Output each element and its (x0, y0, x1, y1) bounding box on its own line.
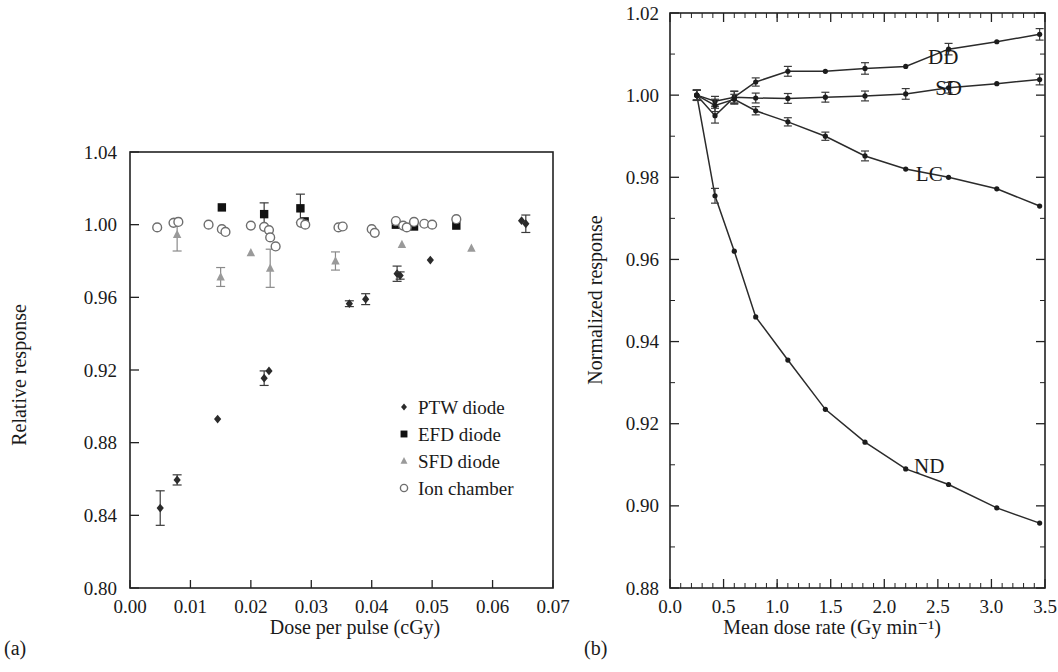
marker-small-dot (994, 81, 999, 86)
marker-filled-diamond (427, 256, 434, 265)
marker-small-dot (732, 97, 737, 102)
marker-small-dot (994, 505, 999, 510)
x-tick-label: 2.5 (926, 596, 950, 617)
x-tick-label: 0.04 (355, 596, 389, 617)
marker-small-dot (994, 186, 999, 191)
x-tick-label: 2.0 (872, 596, 896, 617)
marker-open-circle (301, 220, 310, 229)
series-dd (693, 29, 1044, 123)
marker-filled-diamond (261, 374, 268, 383)
marker-filled-triangle (266, 263, 274, 271)
marker-small-dot (753, 108, 758, 113)
y-tick-label: 1.00 (626, 85, 659, 106)
marker-small-dot (862, 93, 867, 98)
y-tick-label: 0.80 (84, 578, 117, 599)
marker-open-circle (204, 220, 213, 229)
marker-filled-diamond (214, 415, 221, 424)
panel-b-label: (b) (584, 637, 607, 660)
legend-label-efd-diode: EFD diode (418, 424, 501, 445)
marker-small-dot (1037, 32, 1042, 37)
marker-small-dot (785, 357, 790, 362)
panel-a-data-markers (153, 194, 531, 525)
marker-filled-triangle (401, 457, 408, 464)
series-line-dd (697, 34, 1040, 115)
marker-open-circle (428, 220, 437, 229)
marker-open-circle (266, 233, 275, 242)
x-tick-label: 3.5 (1033, 596, 1057, 617)
marker-filled-diamond (157, 504, 164, 513)
x-tick-label: 3.0 (980, 596, 1004, 617)
y-tick-label: 0.88 (626, 578, 659, 599)
marker-filled-square (296, 204, 304, 212)
x-tick-label: 1.0 (765, 596, 789, 617)
marker-open-circle (338, 222, 347, 231)
y-tick-label: 0.94 (626, 331, 660, 352)
series-label-nd: ND (914, 454, 944, 478)
x-tick-label: 0.00 (113, 596, 146, 617)
marker-filled-diamond (362, 295, 369, 304)
marker-filled-square (218, 203, 226, 211)
marker-filled-triangle (173, 230, 181, 238)
x-tick-label: 0.05 (416, 596, 449, 617)
y-tick-label: 0.92 (84, 360, 117, 381)
panel-b-x-axis-ticks: 0.00.51.01.52.02.53.03.5 (658, 13, 1057, 617)
legend-label-ptw-diode: PTW diode (418, 397, 505, 418)
x-tick-label: 1.5 (819, 596, 843, 617)
panel-b-y-axis-ticks: 0.880.900.920.940.960.981.001.02 (626, 3, 1045, 599)
y-tick-label: 1.04 (84, 142, 118, 163)
marker-small-dot (712, 113, 717, 118)
series-label-sd: SD (935, 76, 962, 100)
marker-open-circle (410, 218, 419, 227)
marker-small-dot (823, 407, 828, 412)
marker-small-dot (823, 134, 828, 139)
y-tick-label: 0.84 (84, 505, 118, 526)
marker-small-dot (994, 39, 999, 44)
marker-small-dot (732, 249, 737, 254)
x-tick-label: 0.5 (712, 596, 736, 617)
marker-small-dot (1037, 203, 1042, 208)
marker-small-dot (903, 466, 908, 471)
panel-a-label: (a) (4, 637, 26, 660)
panel-a-frame-rect (130, 152, 553, 588)
y-tick-label: 0.92 (626, 413, 659, 434)
panel-a-y-axis-title: Relative response (8, 304, 31, 446)
marker-small-dot (946, 175, 951, 180)
marker-open-circle (174, 218, 183, 227)
panel-a-x-axis-ticks: 0.000.010.020.030.040.050.060.07 (113, 580, 569, 617)
marker-small-dot (823, 69, 828, 74)
marker-small-dot (712, 193, 717, 198)
series-ion-chamber (153, 215, 461, 251)
series-line-sd (697, 80, 1040, 102)
marker-open-circle (400, 484, 407, 491)
marker-filled-diamond (265, 367, 272, 376)
marker-filled-triangle (247, 248, 255, 256)
marker-small-dot (753, 95, 758, 100)
marker-small-dot (785, 96, 790, 101)
y-tick-label: 0.88 (84, 432, 117, 453)
y-tick-label: 0.96 (84, 287, 117, 308)
series-lc (693, 90, 1042, 208)
panel-b-y-axis-title: Normalized response (584, 215, 607, 385)
marker-small-dot (712, 103, 717, 108)
marker-filled-triangle (331, 256, 339, 264)
marker-filled-triangle (216, 272, 224, 280)
x-tick-label: 0.02 (234, 596, 267, 617)
marker-open-circle (153, 223, 162, 232)
panel-a-x-axis-title: Dose per pulse (cGy) (270, 616, 441, 639)
marker-small-dot (753, 79, 758, 84)
marker-small-dot (785, 69, 790, 74)
marker-small-dot (903, 64, 908, 69)
marker-small-dot (694, 93, 699, 98)
series-label-lc: LC (916, 162, 943, 186)
x-tick-label: 0.0 (658, 596, 682, 617)
panel-b-series-annotations: DDSDLCND (914, 45, 962, 478)
y-tick-label: 0.96 (626, 249, 659, 270)
y-tick-label: 1.02 (626, 3, 659, 24)
panel-b-x-axis-title: Mean dose rate (Gy min⁻¹) (723, 616, 941, 639)
marker-filled-square (260, 210, 268, 218)
marker-filled-square (401, 431, 408, 438)
marker-small-dot (903, 166, 908, 171)
marker-filled-triangle (467, 243, 475, 251)
panel-a-axes-frame (130, 152, 553, 588)
legend-label-ion-chamber: Ion chamber (418, 478, 514, 499)
